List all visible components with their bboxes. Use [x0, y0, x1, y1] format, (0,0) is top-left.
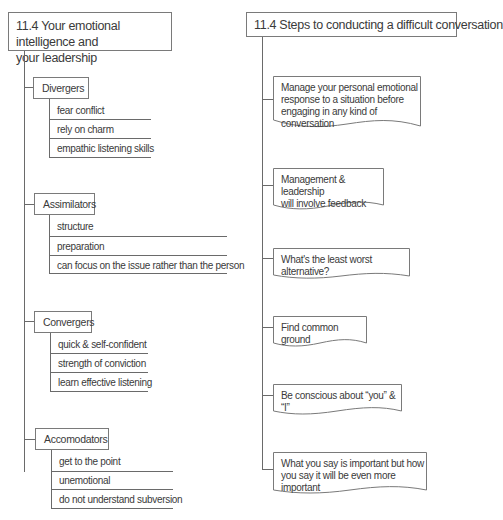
leaf-underline [50, 353, 148, 354]
connector-step-5 [262, 395, 273, 396]
group-assimilators: Assimilators [34, 193, 95, 215]
left-trunk-line [24, 51, 25, 472]
leaf-underline [49, 255, 227, 256]
leaf-item: empathic listening skills [49, 142, 154, 155]
step-1-text: Manage your personal emotional response … [281, 82, 421, 130]
connector-convergers [24, 321, 34, 322]
leaf-underline [51, 471, 173, 472]
leaf-underline [49, 236, 227, 237]
step-2-document: Management & leadership will involve fee… [273, 168, 384, 212]
group-label: Accomodators [44, 433, 108, 445]
leaf-item: fear conflict [49, 104, 104, 117]
left-title-line-2: your leadership [16, 50, 164, 66]
group-convergers: Convergers [34, 311, 92, 333]
leaf-item: preparation [49, 240, 104, 253]
leaf-item: strength of conviction [50, 357, 146, 370]
leaf-item: learn effective listening [50, 376, 152, 389]
leaf-item: quick & self-confident [50, 338, 146, 351]
right-title: 11.4 Steps to conducting a difficult con… [254, 18, 503, 32]
leaf-item: get to the point [51, 455, 120, 468]
group-accomodators: Accomodators [35, 428, 109, 450]
connector-accomodators [24, 439, 35, 440]
leaf-item: can focus on the issue rather than the p… [49, 259, 244, 272]
step-6-text: What you say is important but how you sa… [281, 458, 427, 494]
left-title-line-1: 11.4 Your emotional intelligence and [16, 18, 164, 50]
leaf-underline [49, 157, 151, 158]
leaf-underline [49, 273, 227, 274]
leaf-item: structure [49, 220, 93, 233]
connector-step-6 [262, 469, 273, 470]
connector-assimilators [24, 204, 34, 205]
group-label: Divergers [42, 82, 84, 94]
leaf-underline [49, 119, 151, 120]
step-4-document: Find common ground [273, 316, 367, 348]
step-5-document: Be conscious about “you” & “I” [273, 384, 402, 416]
leaf-underline [49, 138, 151, 139]
right-title-box: 11.4 Steps to conducting a difficult con… [246, 12, 457, 37]
right-trunk-line [262, 37, 263, 470]
step-2-text: Management & leadership will involve fee… [281, 174, 384, 210]
step-1-document: Manage your personal emotional response … [273, 76, 421, 128]
leaf-item: unemotional [51, 474, 110, 487]
left-title-box: 11.4 Your emotional intelligence and you… [8, 12, 172, 51]
step-5-text: Be conscious about “you” & “I” [281, 390, 402, 414]
leaf-underline [51, 489, 173, 490]
connector-step-2 [262, 185, 273, 186]
step-3-text: What's the least worst alternative? [281, 254, 410, 278]
leaf-item: do not understand subversion [51, 493, 182, 506]
step-3-document: What's the least worst alternative? [273, 248, 410, 280]
connector-step-3 [262, 258, 273, 259]
leaf-item: rely on charm [49, 123, 114, 136]
connector-step-4 [262, 327, 273, 328]
step-6-document: What you say is important but how you sa… [273, 452, 427, 496]
step-4-text: Find common ground [281, 322, 367, 346]
group-label: Convergers [43, 316, 94, 328]
connector-step-1 [262, 99, 273, 100]
leaf-underline [50, 372, 148, 373]
group-label: Assimilators [43, 198, 96, 210]
leaf-underline [50, 391, 148, 392]
group-divergers: Divergers [33, 77, 89, 99]
leaf-underline [51, 508, 173, 509]
